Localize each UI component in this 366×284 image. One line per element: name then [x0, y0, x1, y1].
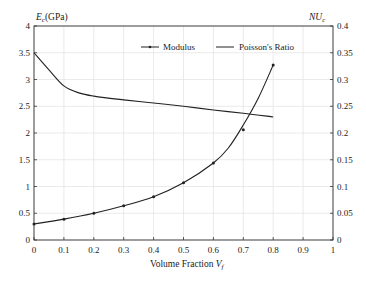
- x-tick-label: 0.2: [88, 245, 99, 255]
- modulus-data-point: [33, 222, 36, 225]
- modulus-data-point: [272, 64, 275, 67]
- chart: 00.10.20.30.40.50.60.70.80.91 00.511.522…: [0, 0, 366, 284]
- y-right-tick-label: 0.15: [337, 155, 353, 165]
- y-tick-label: 2.5: [19, 101, 31, 111]
- modulus-data-point: [92, 212, 95, 215]
- y-tick-label: 2: [26, 128, 31, 138]
- y-right-tick-label: 0.1: [337, 182, 348, 192]
- x-tick-label: 0.9: [297, 245, 309, 255]
- modulus-data-point: [152, 195, 155, 198]
- x-tick-label: 0.6: [208, 245, 220, 255]
- y-right-tick-label: 0: [337, 235, 342, 245]
- y-tick-label: 1: [26, 182, 31, 192]
- x-tick-label: 0.8: [268, 245, 280, 255]
- legend-item-poisson: Poisson's Ratio: [216, 42, 294, 52]
- legend-item-modulus: Modulus: [141, 42, 196, 52]
- modulus-data-point: [122, 204, 125, 207]
- y-right-tick-label: 0.4: [337, 21, 349, 31]
- legend-label-poisson: Poisson's Ratio: [239, 42, 294, 52]
- y-tick-label: 1.5: [19, 155, 31, 165]
- y-tick-label: 3: [26, 75, 31, 85]
- y-tick-label: 0: [26, 235, 31, 245]
- y-axis-right-ticks: 00.050.10.150.20.250.30.350.4: [330, 21, 353, 245]
- y-right-tick-label: 0.3: [337, 75, 349, 85]
- x-tick-label: 0: [32, 245, 37, 255]
- x-tick-label: 0.3: [118, 245, 130, 255]
- modulus-data-point: [212, 161, 215, 164]
- y-right-tick-label: 0.35: [337, 48, 353, 58]
- y-right-tick-label: 0.05: [337, 208, 353, 218]
- x-tick-label: 0.1: [58, 245, 69, 255]
- modulus-data-point: [182, 181, 185, 184]
- x-axis-title: Volume Fraction Vf: [150, 259, 225, 271]
- modulus-data-point: [62, 218, 65, 221]
- x-tick-label: 0.7: [238, 245, 250, 255]
- y-tick-label: 0.5: [19, 208, 31, 218]
- legend-label-modulus: Modulus: [163, 42, 196, 52]
- x-tick-label: 0.5: [178, 245, 190, 255]
- x-tick-label: 0.4: [148, 245, 160, 255]
- y-tick-label: 3.5: [19, 48, 31, 58]
- grid-lines: [34, 26, 333, 240]
- x-tick-label: 1: [331, 245, 336, 255]
- y-right-tick-label: 0.25: [337, 101, 353, 111]
- modulus-data-point: [242, 128, 245, 131]
- legend-modulus-marker-icon: [149, 46, 152, 49]
- legend: Modulus Poisson's Ratio: [141, 42, 294, 52]
- y-axis-right-title: NUc: [308, 12, 326, 24]
- y-tick-label: 4: [26, 21, 31, 31]
- y-right-tick-label: 0.2: [337, 128, 348, 138]
- y-axis-left-title: Ec(GPa): [35, 12, 68, 24]
